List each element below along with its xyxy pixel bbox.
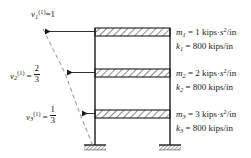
property-k1-number: 800 (193, 41, 207, 51)
left-fixed-support (84, 145, 106, 150)
first-floor-slab (95, 110, 170, 118)
property-m1-unit-main: kips (202, 27, 217, 37)
property-m1-subscript: 1 (183, 31, 186, 38)
property-k1-equals: = (186, 41, 191, 51)
mode-label-v2-fraction: 2 3 (34, 64, 41, 85)
mode-label-v3-denominator: 3 (50, 116, 57, 125)
property-m3-equals: = (188, 109, 193, 119)
property-m2-number: 2 (195, 68, 200, 78)
property-m1-equals: = (188, 27, 193, 37)
property-m3-subscript: 3 (183, 113, 186, 120)
mode-label-v1-value: 1 (51, 9, 56, 19)
roof-slab (95, 28, 170, 36)
property-k2-unit-main: kips/in (209, 82, 234, 92)
property-row-k3: k3 = 800 kips/in (176, 123, 233, 134)
mode-shape-figure: v1(1)=1 v2(1)= 2 3 v3(1)= 1 3 m1 = 1 kip… (0, 0, 251, 158)
property-m2-equals: = (188, 68, 193, 78)
property-row-m2: m2 = 2 kips·s2/in (176, 67, 236, 79)
property-k3-subscript: 3 (180, 127, 183, 134)
mode-label-v1: v1(1)=1 (31, 9, 55, 21)
mode-label-v3-numerator: 1 (50, 105, 57, 114)
property-m1-unit-denominator: /in (227, 27, 237, 37)
mode-label-v2: v2(1)= 2 3 (10, 64, 40, 85)
mode-label-v2-denominator: 3 (34, 75, 41, 84)
property-m3-unit-denominator: /in (227, 109, 237, 119)
property-m1-number: 1 (195, 27, 200, 37)
property-m3-unit-main: kips (202, 109, 217, 119)
property-m2-unit-main: kips (202, 68, 217, 78)
property-k2-equals: = (186, 82, 191, 92)
property-m2-subscript: 2 (183, 72, 186, 79)
property-k3-number: 800 (193, 123, 207, 133)
mode-label-v2-equals: = (26, 71, 31, 81)
property-row-k2: k2 = 800 kips/in (176, 82, 233, 93)
mode-shape-dashed-line (43, 29, 93, 146)
mode-label-v3-equals: = (42, 112, 47, 122)
second-floor-slab (95, 69, 170, 77)
mode-label-v2-numerator: 2 (34, 64, 41, 73)
property-row-k1: k1 = 800 kips/in (176, 41, 233, 52)
mode-label-v3: v3(1)= 1 3 (26, 105, 56, 126)
frame-columns (95, 28, 170, 145)
right-fixed-support (159, 145, 181, 150)
property-k2-number: 800 (193, 82, 207, 92)
property-m3-number: 3 (195, 109, 200, 119)
property-k2-subscript: 2 (180, 86, 183, 93)
property-row-m1: m1 = 1 kips·s2/in (176, 26, 236, 38)
property-k3-unit-main: kips/in (209, 123, 234, 133)
property-m2-unit-denominator: /in (227, 68, 237, 78)
mode-label-v2-superscript: (1) (17, 69, 24, 76)
mode-label-v3-superscript: (1) (33, 110, 40, 117)
property-row-m3: m3 = 3 kips·s2/in (176, 108, 236, 120)
property-k3-equals: = (186, 123, 191, 133)
property-k1-subscript: 1 (180, 45, 183, 52)
mode-label-v3-fraction: 1 3 (50, 105, 57, 126)
property-k1-unit-main: kips/in (209, 41, 234, 51)
